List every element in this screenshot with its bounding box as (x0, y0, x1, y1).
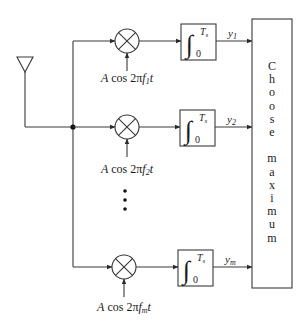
ellipsis-dot (123, 189, 127, 193)
integrator-block: ∫0Ts (181, 24, 216, 60)
branch-2: A cos 2πf2t∫0Tsy2 (73, 110, 252, 177)
ellipsis-dot (123, 198, 127, 202)
decision-letter: s (270, 112, 275, 126)
output-label: y2 (226, 113, 236, 127)
decision-letter: m (267, 231, 277, 245)
decision-letter: x (269, 178, 275, 192)
output-label: y1 (227, 27, 237, 41)
carrier-label: A cos 2πf1t (100, 71, 154, 86)
carrier-label: A cos 2πfmt (96, 300, 152, 315)
receiver-block-diagram: A cos 2πf1t∫0Tsy1A cos 2πf2t∫0Tsy2A cos … (0, 0, 306, 329)
decision-letter: a (269, 165, 275, 179)
mixer-icon (115, 29, 139, 53)
ellipsis-dot (123, 207, 127, 211)
carrier-label: A cos 2πf2t (100, 162, 154, 177)
branch-1: A cos 2πf1t∫0Tsy1 (73, 24, 252, 86)
mixer-icon (112, 255, 136, 279)
decision-letter: e (269, 125, 274, 139)
ellipsis-dots (123, 189, 127, 211)
integral-lower-limit: 0 (196, 48, 201, 59)
decision-letter: o (269, 85, 275, 99)
decision-letter: m (267, 204, 277, 218)
decision-letter: C (268, 59, 276, 73)
antenna-icon (17, 57, 33, 127)
integral-lower-limit: 0 (195, 134, 200, 145)
decision-letter: u (269, 217, 275, 231)
branch-3: A cos 2πfmt∫0Tsym (73, 250, 252, 315)
integrator-block: ∫0Ts (180, 110, 215, 146)
decision-letter: m (267, 151, 277, 165)
mixer-icon (115, 115, 139, 139)
decision-letter: o (269, 99, 275, 113)
integrator-block: ∫0Ts (178, 250, 213, 286)
decision-letter: h (269, 72, 275, 86)
output-label: ym (224, 253, 236, 267)
integral-lower-limit: 0 (193, 274, 198, 285)
